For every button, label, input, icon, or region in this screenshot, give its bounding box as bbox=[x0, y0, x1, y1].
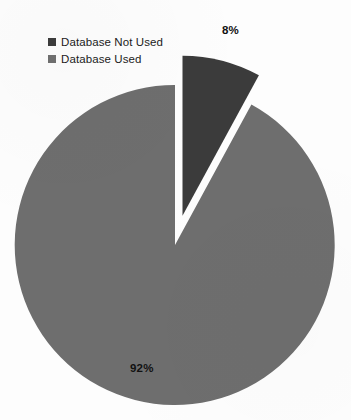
legend-swatch-icon-used bbox=[48, 55, 56, 63]
slice-value-label-used: 92% bbox=[130, 362, 154, 374]
pie-chart-figure: 8% 92% Database Not Used Database Used bbox=[0, 0, 351, 420]
legend-label-not-used: Database Not Used bbox=[61, 36, 163, 48]
legend-item-database-used[interactable]: Database Used bbox=[48, 51, 163, 67]
pie-slice-database-used[interactable] bbox=[15, 85, 335, 405]
legend-item-database-not-used[interactable]: Database Not Used bbox=[48, 34, 163, 50]
legend-swatch-icon-not-used bbox=[48, 38, 56, 46]
chart-legend: Database Not Used Database Used bbox=[48, 34, 163, 68]
slice-value-label-not-used: 8% bbox=[222, 24, 239, 36]
legend-label-used: Database Used bbox=[61, 53, 142, 65]
